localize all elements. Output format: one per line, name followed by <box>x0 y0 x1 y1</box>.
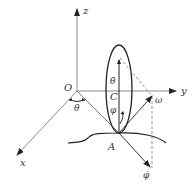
rolling-disk-diagram: z y x O θ θ̇ C φ ω A φ̇ <box>0 0 193 188</box>
center-c-label: C <box>110 91 118 102</box>
theta-label: θ <box>74 103 80 113</box>
z-axis-label: z <box>82 5 89 16</box>
theta-dot-label: θ̇ <box>110 76 116 86</box>
phi-dot-label: φ̇ <box>143 170 150 180</box>
origin-label: O <box>64 82 72 93</box>
phi-dot-vector <box>119 133 150 167</box>
theta-angle-arc <box>69 98 85 102</box>
x-axis-label: x <box>20 157 26 168</box>
phi-label: φ <box>110 105 117 115</box>
dashed-line-top-to-omega <box>120 58 152 96</box>
phi-angle-arc <box>120 111 124 124</box>
omega-vector <box>119 96 152 133</box>
ground-curve <box>68 133 166 143</box>
y-axis-label: y <box>180 85 187 96</box>
x-axis <box>17 91 77 155</box>
omega-label: ω <box>155 95 163 105</box>
contact-a-label: A <box>107 141 115 152</box>
